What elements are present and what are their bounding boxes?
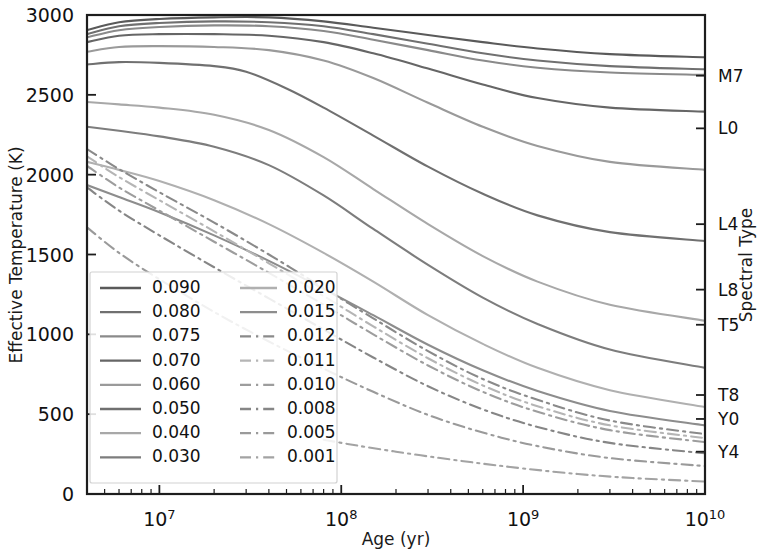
legend-label-0-001: 0.001 xyxy=(287,446,336,466)
y-axis-ticks: 050010001500200025003000 xyxy=(26,4,96,505)
y-axis-label: Effective Temperature (K) xyxy=(6,146,26,363)
spectral-type-label: Y4 xyxy=(717,442,739,462)
curve-0-075 xyxy=(87,25,705,75)
legend-label-0-020: 0.020 xyxy=(287,277,336,297)
legend-label-0-008: 0.008 xyxy=(287,398,336,418)
legend-label-0-012: 0.012 xyxy=(287,325,336,345)
spectral-type-label: M7 xyxy=(718,66,743,86)
x-axis-ticks: 1071081091010 xyxy=(87,485,725,530)
legend: 0.0900.0800.0750.0700.0600.0500.0400.030… xyxy=(90,272,337,483)
y2-axis-label: Spectral Type xyxy=(736,208,756,323)
legend-label-0-010: 0.010 xyxy=(287,374,336,394)
legend-label-0-015: 0.015 xyxy=(287,301,336,321)
figure-root: 1071081091010 050010001500200025003000 M… xyxy=(0,0,767,554)
legend-label-0-080: 0.080 xyxy=(152,301,201,321)
legend-label-0-075: 0.075 xyxy=(152,325,201,345)
y-tick-label: 1000 xyxy=(26,323,74,345)
y-tick-label: 1500 xyxy=(26,244,74,266)
x-axis-label: Age (yr) xyxy=(362,529,431,549)
legend-label-0-011: 0.011 xyxy=(287,350,336,370)
spectral-type-label: Y0 xyxy=(717,409,739,429)
legend-label-0-005: 0.005 xyxy=(287,422,336,442)
y-tick-label: 500 xyxy=(38,403,74,425)
legend-label-0-070: 0.070 xyxy=(152,350,201,370)
spectral-type-label: L0 xyxy=(718,118,738,138)
x-tick-label: 108 xyxy=(325,507,357,531)
x-tick-label: 107 xyxy=(143,507,175,531)
y-tick-label: 2500 xyxy=(26,84,74,106)
legend-label-0-040: 0.040 xyxy=(152,422,201,442)
x-tick-label: 109 xyxy=(507,507,539,531)
x-tick-label: 1010 xyxy=(685,507,726,531)
y-tick-label: 2000 xyxy=(26,164,74,186)
cooling-track-chart: 1071081091010 050010001500200025003000 M… xyxy=(0,0,767,554)
spectral-type-label: T8 xyxy=(717,385,739,405)
legend-label-0-060: 0.060 xyxy=(152,374,201,394)
legend-label-0-090: 0.090 xyxy=(152,277,201,297)
y-tick-label: 0 xyxy=(62,483,74,505)
y-tick-label: 3000 xyxy=(26,4,74,26)
legend-label-0-050: 0.050 xyxy=(152,398,201,418)
legend-label-0-030: 0.030 xyxy=(152,446,201,466)
curve-0-001 xyxy=(324,440,705,482)
